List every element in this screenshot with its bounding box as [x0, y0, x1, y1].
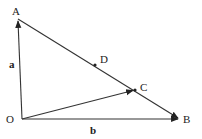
vector-a-label: a	[9, 58, 15, 70]
point-a-label: A	[12, 5, 20, 17]
vector-b-label: b	[90, 124, 96, 136]
vector-oc-line	[22, 91, 133, 120]
vector-a-line	[18, 21, 22, 119]
point-o-label: O	[6, 113, 14, 125]
point-b-label: B	[183, 113, 190, 125]
point-c-dot	[133, 88, 136, 91]
point-d-dot	[93, 63, 96, 66]
point-d-label: D	[100, 53, 108, 65]
point-c-label: C	[140, 81, 147, 93]
segment-ab-line	[18, 19, 178, 118]
vector-diagram: A O B C D a b	[0, 0, 202, 139]
